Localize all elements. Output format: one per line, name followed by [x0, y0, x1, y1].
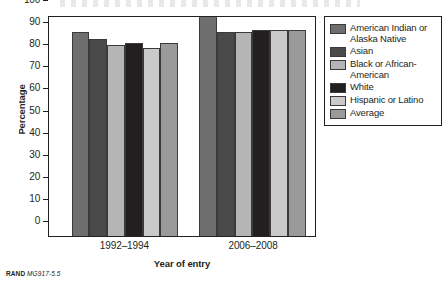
- legend: American Indian or Alaska NativeAsianBla…: [324, 16, 442, 126]
- legend-item: Black or African-American: [330, 58, 437, 80]
- bar: [72, 32, 90, 236]
- bar: [217, 32, 235, 236]
- y-tick-label: 80: [29, 39, 40, 49]
- y-axis: 0102030405060708090100: [0, 0, 48, 221]
- y-tick-label: 60: [29, 83, 40, 93]
- bar: [89, 39, 107, 236]
- bar: [143, 48, 161, 236]
- bar: [235, 32, 253, 236]
- y-tick-mark: [43, 0, 48, 1]
- x-axis: 1992–1994 2006–2008: [48, 240, 316, 254]
- bar: [160, 43, 178, 236]
- legend-label: American Indian or Alaska Native: [350, 22, 437, 44]
- plot-area: [48, 16, 316, 237]
- legend-item: American Indian or Alaska Native: [330, 22, 437, 44]
- bar: [270, 30, 288, 236]
- footer-brand: RAND: [6, 270, 25, 277]
- bar: [107, 45, 125, 236]
- y-tick-label: 0: [35, 216, 40, 226]
- y-tick-label: 50: [29, 106, 40, 116]
- legend-label: Black or African-American: [350, 58, 437, 80]
- legend-item: Average: [330, 107, 437, 119]
- x-axis-title: Year of entry: [48, 258, 316, 269]
- footer-figure-code: MG917-5.5: [27, 270, 60, 277]
- y-tick-label: 20: [29, 172, 40, 182]
- legend-swatch: [330, 83, 346, 93]
- legend-item: Hispanic or Latino: [330, 94, 437, 106]
- bar: [252, 30, 270, 236]
- legend-swatch: [330, 24, 346, 34]
- y-tick-label: 90: [29, 17, 40, 27]
- bars-layer: [49, 17, 315, 236]
- y-tick-label: 30: [29, 150, 40, 160]
- y-tick-label: 10: [29, 194, 40, 204]
- figure-footer: RAND MG917-5.5: [6, 270, 61, 277]
- x-tick-label: 2006–2008: [228, 240, 277, 252]
- legend-swatch: [330, 60, 346, 70]
- legend-swatch: [330, 109, 346, 119]
- bar: [288, 30, 306, 236]
- legend-label: Hispanic or Latino: [350, 94, 423, 105]
- bar: [125, 43, 143, 236]
- legend-swatch: [330, 47, 346, 57]
- x-tick-label: 1992–1994: [100, 240, 149, 252]
- legend-swatch: [330, 96, 346, 106]
- scan-artifact: [60, 0, 360, 7]
- legend-label: White: [350, 81, 374, 92]
- legend-label: Average: [350, 107, 384, 118]
- y-tick-label: 40: [29, 128, 40, 138]
- y-tick-label: 100: [24, 0, 40, 5]
- bar: [199, 17, 217, 236]
- bar-group-2006-2008: [199, 17, 305, 236]
- legend-item: White: [330, 81, 437, 93]
- legend-label: Asian: [350, 45, 373, 56]
- y-tick-label: 70: [29, 61, 40, 71]
- legend-item: Asian: [330, 45, 437, 57]
- bar-group-1992-1994: [72, 17, 178, 236]
- figure-container: Percentage 0102030405060708090100 1992–1…: [0, 0, 446, 288]
